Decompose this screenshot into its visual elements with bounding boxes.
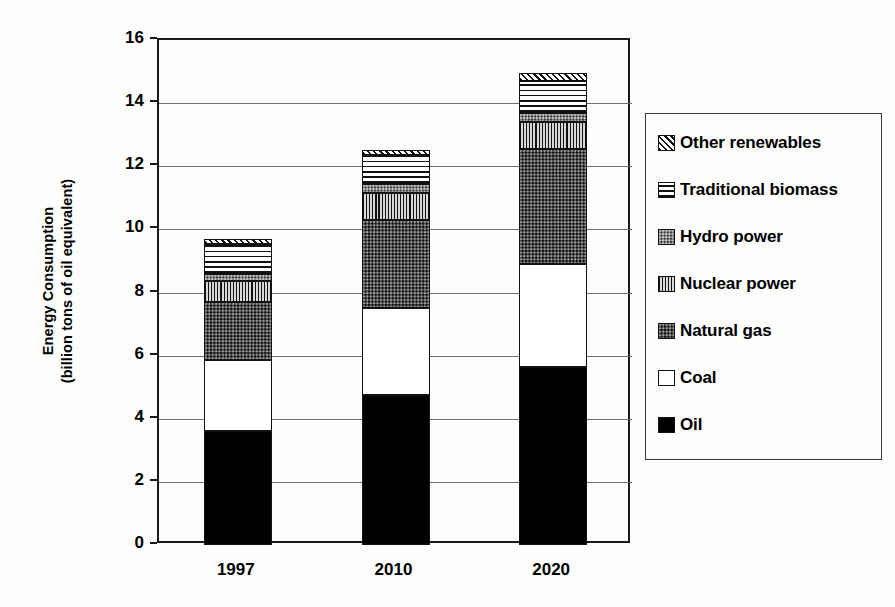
- bar-segment-nuclear-power[interactable]: [519, 122, 587, 149]
- y-axis-ticks: 1614121086420: [92, 0, 144, 607]
- y-tick-mark: [150, 37, 157, 39]
- bar-segment-oil[interactable]: [362, 395, 430, 545]
- y-tick-label: 16: [100, 28, 144, 48]
- x-tick-label: 1997: [176, 560, 296, 580]
- legend-swatch-icon: [658, 323, 675, 339]
- bar-segment-other-renewables[interactable]: [519, 73, 587, 81]
- legend-item-oil[interactable]: Oil: [658, 414, 702, 436]
- y-tick-label: 10: [100, 217, 144, 237]
- legend-label: Coal: [680, 368, 716, 388]
- legend-label: Hydro power: [680, 227, 783, 247]
- legend-swatch-icon: [658, 276, 675, 292]
- bar-segment-traditional-biomass[interactable]: [519, 81, 587, 113]
- bar-stack[interactable]: [362, 40, 430, 545]
- y-tick-label: 12: [100, 154, 144, 174]
- y-tick-label: 8: [100, 281, 144, 301]
- legend-label: Natural gas: [680, 321, 772, 341]
- legend-swatch-icon: [658, 229, 675, 245]
- legend-item-nuclear-power[interactable]: Nuclear power: [658, 273, 796, 295]
- y-tick-label: 0: [100, 533, 144, 553]
- bar-segment-natural-gas[interactable]: [519, 149, 587, 264]
- legend-label: Other renewables: [680, 133, 821, 153]
- legend-item-hydro-power[interactable]: Hydro power: [658, 226, 783, 248]
- y-axis-title: Energy Consumption (billion tons of oil …: [39, 131, 77, 431]
- y-tick-label: 6: [100, 344, 144, 364]
- legend-label: Oil: [680, 415, 702, 435]
- y-tick-mark: [150, 542, 157, 544]
- y-tick-mark: [150, 163, 157, 165]
- legend: Other renewablesTraditional biomassHydro…: [645, 113, 882, 460]
- bar-segment-traditional-biomass[interactable]: [204, 244, 272, 274]
- y-axis-title-line1: Energy Consumption: [39, 131, 58, 431]
- legend-swatch-icon: [658, 135, 675, 151]
- bar-segment-oil[interactable]: [519, 367, 587, 545]
- legend-label: Traditional biomass: [680, 180, 838, 200]
- y-tick-label: 2: [100, 470, 144, 490]
- bar-segment-coal[interactable]: [519, 264, 587, 367]
- bar-segment-nuclear-power[interactable]: [204, 281, 272, 302]
- legend-item-traditional-biomass[interactable]: Traditional biomass: [658, 179, 838, 201]
- bar-stack[interactable]: [519, 40, 587, 545]
- x-tick-label: 2010: [334, 560, 454, 580]
- bar-segment-natural-gas[interactable]: [362, 220, 430, 308]
- y-tick-mark: [150, 416, 157, 418]
- x-tick-label: 2020: [491, 560, 611, 580]
- bar-segment-oil[interactable]: [204, 431, 272, 545]
- legend-label: Nuclear power: [680, 274, 796, 294]
- bar-segment-coal[interactable]: [362, 308, 430, 395]
- legend-item-other-renewables[interactable]: Other renewables: [658, 132, 821, 154]
- legend-swatch-icon: [658, 370, 675, 386]
- bar-segment-other-renewables[interactable]: [204, 239, 272, 244]
- y-tick-label: 4: [100, 407, 144, 427]
- bar-segment-natural-gas[interactable]: [204, 302, 272, 360]
- y-tick-mark: [150, 479, 157, 481]
- stacked-bar-chart: Energy Consumption (billion tons of oil …: [0, 0, 895, 607]
- plot-area: [157, 38, 630, 543]
- bar-segment-traditional-biomass[interactable]: [362, 155, 430, 183]
- legend-item-coal[interactable]: Coal: [658, 367, 716, 389]
- legend-item-natural-gas[interactable]: Natural gas: [658, 320, 772, 342]
- y-tick-mark: [150, 100, 157, 102]
- y-tick-mark: [150, 290, 157, 292]
- bar-segment-coal[interactable]: [204, 360, 272, 431]
- bar-stack[interactable]: [204, 40, 272, 545]
- legend-swatch-icon: [658, 417, 675, 433]
- bar-segment-hydro-power[interactable]: [519, 113, 587, 122]
- bar-segment-nuclear-power[interactable]: [362, 193, 430, 220]
- y-tick-mark: [150, 353, 157, 355]
- y-tick-mark: [150, 226, 157, 228]
- y-tick-label: 14: [100, 91, 144, 111]
- bar-segment-other-renewables[interactable]: [362, 150, 430, 155]
- bar-segment-hydro-power[interactable]: [362, 184, 430, 193]
- bar-segment-hydro-power[interactable]: [204, 274, 272, 282]
- y-axis-title-line2: (billion tons of oil equivalent): [58, 131, 77, 431]
- legend-swatch-icon: [658, 182, 675, 198]
